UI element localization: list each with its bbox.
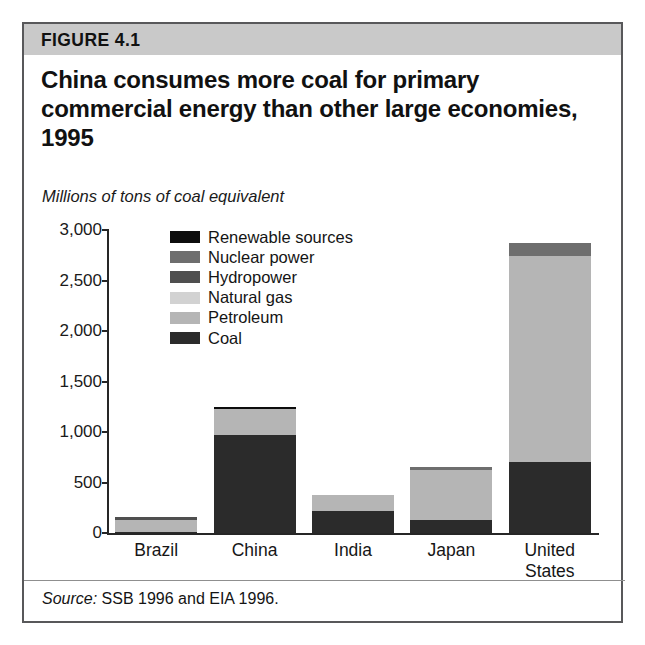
chart-legend: Renewable sourcesNuclear powerHydropower… [170, 227, 353, 348]
legend-item: Coal [170, 328, 353, 348]
legend-label: Hydropower [208, 268, 297, 287]
bar-segment [410, 520, 492, 533]
legend-swatch-icon [170, 251, 200, 263]
legend-item: Nuclear power [170, 247, 353, 267]
legend-item: Hydropower [170, 267, 353, 287]
legend-item: Natural gas [170, 288, 353, 308]
y-axis-tick-mark [102, 229, 107, 231]
source-divider [24, 580, 625, 581]
bar-segment [509, 256, 591, 463]
y-axis-tick-mark [102, 431, 107, 433]
category-label: Japan [402, 540, 500, 561]
bar-stack [509, 243, 591, 533]
bar-segment [509, 462, 591, 533]
y-axis-tick-label: 0 [32, 523, 102, 543]
category-label: Brazil [107, 540, 205, 561]
legend-label: Petroleum [208, 308, 283, 327]
bar-group [410, 230, 492, 533]
y-axis-tick-label: 2,500 [32, 271, 102, 291]
category-label: China [205, 540, 303, 561]
bar-segment [509, 243, 591, 256]
bar-segment [312, 495, 394, 511]
bar-stack [115, 517, 197, 533]
y-axis-tick-label: 3,000 [32, 220, 102, 240]
bar-segment [214, 435, 296, 533]
x-axis-line [107, 533, 599, 535]
bar-segment [410, 470, 492, 519]
figure-frame: FIGURE 4.1 China consumes more coal for … [22, 22, 623, 623]
legend-item: Petroleum [170, 308, 353, 328]
y-axis-tick-mark [102, 280, 107, 282]
y-axis-tick-label: 1,500 [32, 372, 102, 392]
bar-segment [214, 409, 296, 435]
legend-swatch-icon [170, 292, 200, 304]
category-label: India [304, 540, 402, 561]
category-label: UnitedStates [501, 540, 599, 583]
source-value: SSB 1996 and EIA 1996. [97, 590, 278, 607]
y-axis-line [107, 229, 109, 533]
bar-stack [410, 467, 492, 533]
y-axis-tick-mark [102, 381, 107, 383]
bar-segment [312, 511, 394, 533]
source-label: Source: [42, 590, 97, 607]
legend-swatch-icon [170, 312, 200, 324]
legend-label: Natural gas [208, 288, 292, 307]
bar-segment [115, 520, 197, 532]
legend-swatch-icon [170, 332, 200, 344]
bar-group [509, 230, 591, 533]
bar-stack [214, 407, 296, 533]
legend-swatch-icon [170, 231, 200, 243]
y-axis-tick-label: 1,000 [32, 422, 102, 442]
y-axis-tick-label: 500 [32, 473, 102, 493]
y-axis-tick-mark [102, 482, 107, 484]
legend-label: Coal [208, 329, 242, 348]
legend-label: Nuclear power [208, 248, 314, 267]
y-axis-tick-mark [102, 330, 107, 332]
source-note: Source: SSB 1996 and EIA 1996. [42, 590, 279, 608]
y-axis-tick-mark [102, 532, 107, 534]
legend-label: Renewable sources [208, 228, 353, 247]
bar-stack [312, 495, 394, 533]
bar-segment [115, 532, 197, 533]
legend-item: Renewable sources [170, 227, 353, 247]
y-axis-tick-label: 2,000 [32, 321, 102, 341]
legend-swatch-icon [170, 271, 200, 283]
